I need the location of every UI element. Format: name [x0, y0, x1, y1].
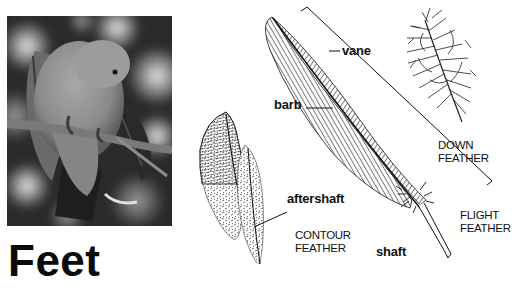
label-down-feather-line2: FEATHER	[438, 152, 489, 165]
label-contour-feather-line2: FEATHER	[295, 242, 351, 255]
section-heading: Feet	[8, 236, 100, 286]
feather-types-diagram: vane barb aftershaft shaft DOWN FEATHER …	[180, 0, 518, 292]
label-flight-feather-line2: FEATHER	[460, 222, 511, 235]
label-contour-feather: CONTOUR FEATHER	[295, 229, 351, 255]
contour-feather	[200, 112, 264, 264]
label-down-feather-line1: DOWN	[438, 139, 489, 152]
label-barb: barb	[274, 97, 301, 112]
label-shaft: shaft	[376, 244, 406, 259]
bird-photo-image	[7, 16, 172, 226]
label-aftershaft: aftershaft	[287, 191, 344, 206]
label-contour-feather-line1: CONTOUR	[295, 229, 351, 242]
label-down-feather: DOWN FEATHER	[438, 139, 489, 165]
label-vane: vane	[342, 43, 371, 58]
label-flight-feather: FLIGHT FEATHER	[460, 209, 511, 235]
bird-photo	[7, 16, 172, 226]
label-flight-feather-line1: FLIGHT	[460, 209, 511, 222]
down-feather	[407, 8, 476, 122]
